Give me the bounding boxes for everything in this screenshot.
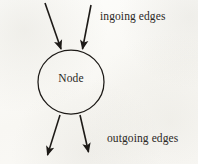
node-label: Node xyxy=(38,73,104,85)
ingoing-edge-left xyxy=(45,3,61,49)
node-edges-diagram: Node ingoing edges outgoing edges xyxy=(0,0,198,164)
outgoing-edge-left xyxy=(48,115,61,155)
outgoing-edge-right xyxy=(80,115,89,152)
ingoing-edges-label: ingoing edges xyxy=(100,11,166,23)
outgoing-edges-group xyxy=(48,115,89,155)
ingoing-edges-group xyxy=(45,3,91,49)
ingoing-edge-right xyxy=(83,5,92,49)
outgoing-edges-label: outgoing edges xyxy=(107,133,178,145)
